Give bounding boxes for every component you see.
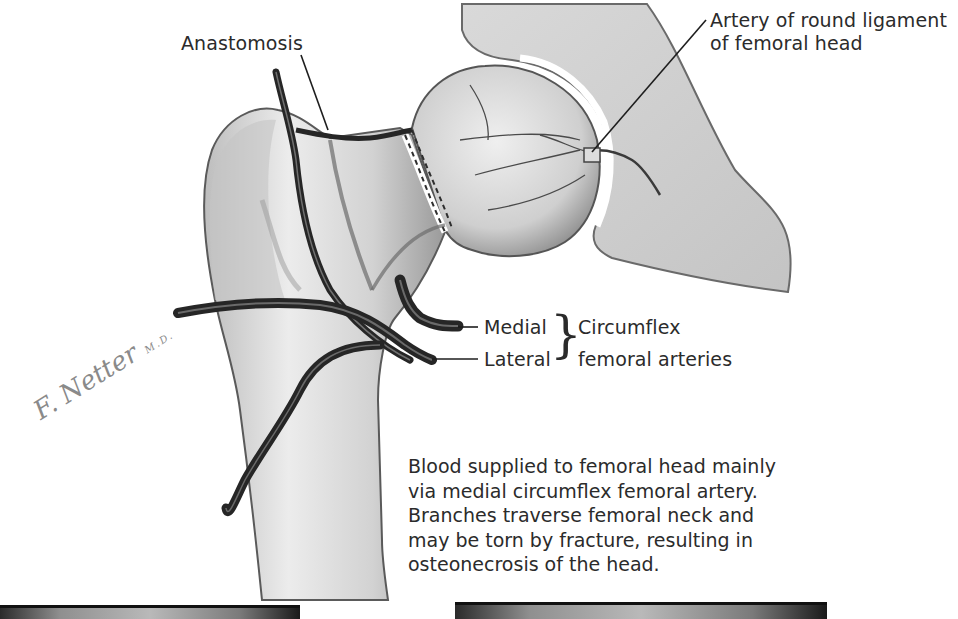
caption-line: Blood supplied to femoral head mainly	[408, 454, 776, 479]
label-artery-round-ligament-line2: of femoral head	[710, 32, 863, 54]
xray-panel-left	[0, 605, 300, 619]
caption-line: Branches traverse femoral neck and	[408, 503, 776, 528]
label-artery-round-ligament-line1: Artery of round ligament	[710, 9, 947, 31]
xray-panel-right	[455, 602, 827, 619]
label-circumflex-line1: Circumflex	[578, 316, 681, 338]
caption-line: via medial circumflex femoral artery.	[408, 479, 776, 504]
caption-line: may be torn by fracture, resulting in	[408, 528, 776, 553]
label-anastomosis: Anastomosis	[181, 32, 303, 54]
label-circumflex-line2: femoral arteries	[578, 348, 732, 370]
label-lateral: Lateral	[484, 348, 551, 370]
caption-line: osteonecrosis of the head.	[408, 552, 776, 577]
caption: Blood supplied to femoral head mainly vi…	[408, 454, 776, 577]
label-medial: Medial	[484, 316, 547, 338]
